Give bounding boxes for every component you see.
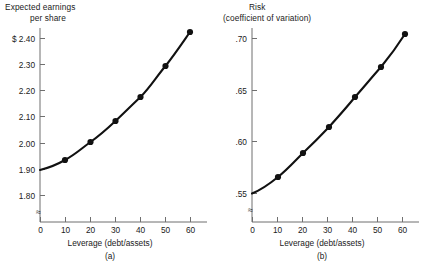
panel-a-ytick-190: 1.90 (0, 166, 35, 175)
panel-b-axis-break-icon: ≈ (248, 205, 253, 215)
data-point (137, 94, 143, 100)
data-point (87, 139, 93, 145)
panel-a-x-ticks (41, 217, 191, 222)
panel-a-ytick-200: 2.00 (0, 140, 35, 149)
panel-a-axis-break-icon: ≈ (36, 207, 41, 217)
figure-two-panel-leverage: Expected earnings per share (0, 0, 427, 264)
panel-a-ytick-220: 2.20 (0, 87, 35, 96)
panel-a-data-markers (62, 29, 193, 163)
panel-a-xtick-0: 0 (31, 226, 51, 235)
panel-b-xtick-30: 30 (318, 226, 338, 235)
panel-a-ytick-230: 2.30 (0, 61, 35, 70)
panel-a-data-line (40, 32, 190, 170)
panel-a-xtick-60: 60 (181, 226, 201, 235)
panel-a-xtick-40: 40 (131, 226, 151, 235)
data-point (112, 118, 118, 124)
panel-b-ytick-60: .60 (213, 138, 247, 147)
panel-b-ytick-65: .65 (213, 87, 247, 96)
data-point (402, 31, 408, 37)
panel-b-data-line (252, 34, 405, 194)
panel-a-ytick-240: $ 2.40 (0, 35, 35, 44)
data-point (275, 174, 281, 180)
panel-b-xtick-50: 50 (368, 226, 388, 235)
panel-b-ytick-55: .55 (213, 190, 247, 199)
panel-b: Risk (coefficient of variation) (213, 0, 426, 264)
panel-b-xtick-0: 0 (243, 226, 263, 235)
panel-a-y-ticks (40, 39, 45, 196)
panel-b-xtick-20: 20 (293, 226, 313, 235)
data-point (352, 94, 358, 100)
panel-a-xtick-10: 10 (56, 226, 76, 235)
panel-b-data-markers (275, 31, 408, 180)
panel-b-x-ticks (253, 217, 403, 222)
panel-b-xtick-40: 40 (343, 226, 363, 235)
panel-a-ytick-210: 2.10 (0, 113, 35, 122)
panel-a-xaxis-caption: Leverage (debt/assets) (30, 238, 190, 248)
data-point (62, 157, 68, 163)
panel-b-y-ticks (252, 39, 257, 194)
panel-b-xtick-60: 60 (393, 226, 413, 235)
panel-b-xaxis-caption: Leverage (debt/assets) (242, 238, 402, 248)
panel-a-caption: (a) (80, 251, 140, 261)
panel-a: Expected earnings per share (0, 0, 213, 264)
panel-a-xtick-50: 50 (156, 226, 176, 235)
panel-b-caption: (b) (292, 251, 352, 261)
data-point (378, 64, 384, 70)
panel-b-ytick-70: .70 (213, 35, 247, 44)
data-point (187, 29, 193, 35)
data-point (300, 150, 306, 156)
data-point (326, 124, 332, 130)
panel-a-xtick-30: 30 (106, 226, 126, 235)
panel-b-xtick-10: 10 (268, 226, 288, 235)
panel-a-xtick-20: 20 (81, 226, 101, 235)
panel-a-ytick-180: 1.80 (0, 192, 35, 201)
data-point (162, 63, 168, 69)
